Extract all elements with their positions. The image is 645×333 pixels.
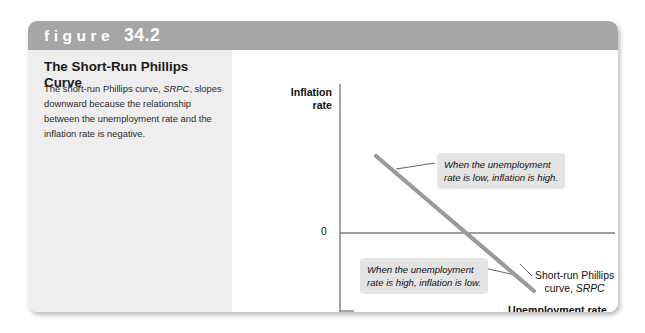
x-axis-label: Unemployment rate [508, 304, 607, 312]
description-italic-srpc: SRPC [163, 83, 189, 94]
figure-banner-word: figure [44, 27, 114, 44]
curve-label-srpc: SRPC [576, 283, 605, 294]
figure-card: figure34.2 The Short-Run Phillips Curve … [28, 21, 618, 312]
chart-plot-area: Inflation rate 0 Unemployment rate When … [232, 50, 618, 312]
callout-high-leader-line [396, 163, 435, 169]
callout-high-line2: rate is low, inflation is high. [444, 171, 558, 184]
figure-description: The short-run Phillips curve, SRPC, slop… [44, 82, 222, 141]
curve-label-line1: Short-run Phillips [535, 269, 614, 282]
callout-high-unemployment-low-inflation: When the unemployment rate is high, infl… [360, 258, 488, 294]
callout-low-line1: When the unemployment [367, 263, 481, 276]
y-axis-label: Inflation rate [272, 86, 332, 112]
curve-label: Short-run Phillips curve, SRPC [535, 269, 614, 295]
callout-high-line1: When the unemployment [444, 158, 558, 171]
figure-banner-text: figure34.2 [44, 25, 160, 46]
curve-label-leader-line [520, 264, 532, 276]
figure-banner: figure34.2 [28, 21, 618, 50]
callout-low-line2: rate is high, inflation is low. [367, 276, 481, 289]
description-pre: The short-run Phillips curve, [44, 83, 163, 94]
figure-banner-number: 34.2 [124, 25, 160, 45]
curve-label-line2: curve, SRPC [535, 282, 614, 295]
curve-label-line2-pre: curve, [545, 283, 576, 294]
origin-label: 0 [321, 226, 327, 237]
callout-low-unemployment-high-inflation: When the unemployment rate is low, infla… [437, 153, 565, 189]
